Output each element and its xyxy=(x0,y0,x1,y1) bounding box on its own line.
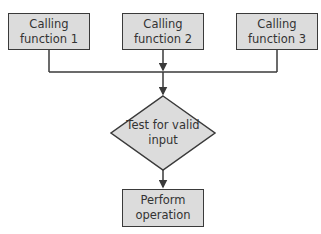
node-label-line: Calling xyxy=(20,17,78,32)
node-label-line: Calling xyxy=(134,17,192,32)
node-label-line: Test for valid xyxy=(111,118,215,133)
node-calling-function-1: Callingfunction 1 xyxy=(8,13,90,50)
node-perform-operation: Performoperation xyxy=(122,189,204,227)
node-label-line: operation xyxy=(135,208,190,223)
node-test-valid-input: Test for valid input xyxy=(111,118,215,148)
node-label-line: function 2 xyxy=(134,32,192,47)
node-label-line: Calling xyxy=(248,17,306,32)
node-label-line: Perform xyxy=(135,193,190,208)
node-label-line: function 1 xyxy=(20,32,78,47)
node-calling-function-3: Callingfunction 3 xyxy=(236,13,318,50)
node-label-line: function 3 xyxy=(248,32,306,47)
node-calling-function-2: Callingfunction 2 xyxy=(122,13,204,50)
node-label-line: input xyxy=(111,133,215,148)
